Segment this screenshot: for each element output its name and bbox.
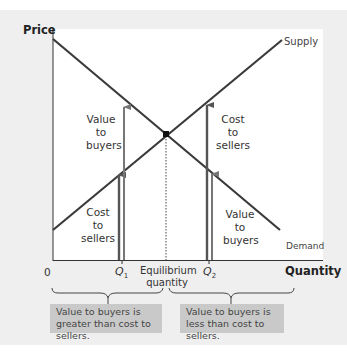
right-note-box: Value to buyers is less than cost to sel… xyxy=(180,304,284,333)
origin-label: 0 xyxy=(44,266,51,279)
q1-value-to-buyers-label: Value to buyers xyxy=(86,113,116,152)
equilibrium-point xyxy=(163,131,169,137)
q2-label: Q2 xyxy=(203,265,216,283)
q1-cost-to-sellers-label: Cost to sellers xyxy=(80,206,116,245)
x-axis-title: Quantity xyxy=(285,265,341,278)
equilibrium-label-line1: Equilibrium xyxy=(140,265,194,277)
q2-value-to-buyers-label: Value to buyers xyxy=(223,208,257,247)
y-axis-title: Price xyxy=(23,24,56,37)
supply-demand-graph xyxy=(0,0,347,353)
equilibrium-quantity-label: Equilibrium quantity xyxy=(140,265,194,289)
q2-cost-to-sellers-label: Cost to sellers xyxy=(215,113,251,152)
supply-label: Supply xyxy=(284,35,318,48)
right-brace xyxy=(169,288,294,298)
demand-label: Demand xyxy=(286,240,324,253)
left-note-box: Value to buyers is greater than cost to … xyxy=(50,304,162,333)
q1-label: Q1 xyxy=(115,265,128,283)
equilibrium-label-line2: quantity xyxy=(140,277,194,289)
left-brace xyxy=(52,288,163,298)
